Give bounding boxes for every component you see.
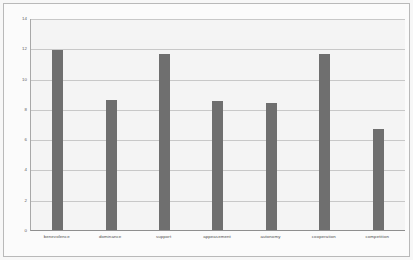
- bar[interactable]: [52, 50, 63, 230]
- x-axis-tick-label: competition: [366, 234, 390, 239]
- x-axis-tick-label: dominance: [99, 234, 121, 239]
- bar[interactable]: [319, 54, 330, 230]
- x-axis-tick-label: cooperation: [312, 234, 336, 239]
- y-axis-tick-label: 4: [3, 168, 27, 172]
- chart-window: 14121086420 benevolencedominancesupporta…: [0, 0, 413, 260]
- x-axis-tick-label: benevolence: [44, 234, 70, 239]
- y-axis-tick-label: 8: [3, 108, 27, 112]
- bar-slot: [298, 19, 351, 230]
- y-axis-tick-label: 6: [3, 138, 27, 142]
- bar[interactable]: [266, 103, 277, 230]
- x-axis-tick-label: support: [156, 234, 171, 239]
- x-axis-tick-labels: benevolencedominancesupportappeasementau…: [30, 234, 405, 248]
- bar-slot: [191, 19, 244, 230]
- x-axis-tick-label: autonomy: [260, 234, 280, 239]
- y-axis-tick-label: 2: [3, 199, 27, 203]
- bar[interactable]: [212, 101, 223, 230]
- y-axis-tick-label: 14: [3, 17, 27, 21]
- x-axis-tick-label: appeasement: [203, 234, 231, 239]
- y-axis-tick-labels: 14121086420: [0, 19, 27, 231]
- bar-slot: [84, 19, 137, 230]
- bar-slot: [31, 19, 84, 230]
- y-axis-tick-label: 12: [3, 47, 27, 51]
- y-axis-tick-label: 0: [3, 229, 27, 233]
- plot-area: [30, 19, 405, 231]
- bar[interactable]: [373, 129, 384, 230]
- bar-slot: [245, 19, 298, 230]
- y-axis-tick-label: 10: [3, 77, 27, 81]
- bar-slot: [138, 19, 191, 230]
- bar[interactable]: [106, 100, 117, 230]
- bar-slot: [352, 19, 405, 230]
- bar[interactable]: [159, 54, 170, 230]
